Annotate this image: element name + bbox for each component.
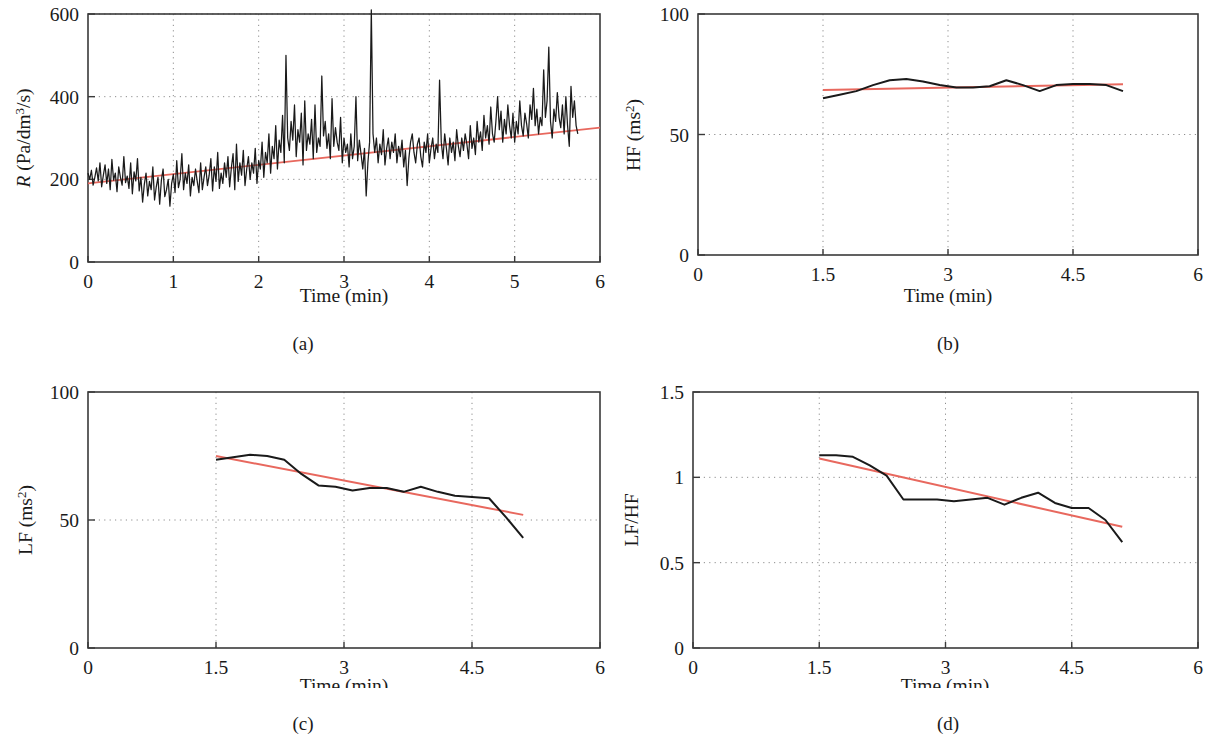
panel-b-xtick-label: 3 bbox=[943, 264, 953, 285]
panel-d-ytick-labels: 00.511.5 bbox=[660, 382, 684, 659]
panel-a-xtick-label: 2 bbox=[254, 271, 264, 292]
panel-d-caption: (d) bbox=[908, 713, 988, 735]
panel-c-plot: 050100 01.534.56 Time (min) LF (ms2) bbox=[0, 378, 610, 688]
panel-b-xtick-label: 6 bbox=[1193, 264, 1203, 285]
panel-a-xtick-label: 4 bbox=[424, 271, 434, 292]
panel-d-yaxis-title: LF/HF bbox=[621, 493, 642, 546]
panel-a-ytick-label: 600 bbox=[50, 4, 79, 25]
panel-b-grid bbox=[698, 14, 1198, 255]
panel-c-xaxis-title: Time (min) bbox=[300, 675, 389, 688]
panel-a-caption: (a) bbox=[263, 333, 343, 355]
panel-c-xtick-label: 0 bbox=[83, 657, 93, 678]
panel-d-ytick-label: 0 bbox=[674, 638, 684, 659]
panel-a-yaxis-unit-tail: /s) bbox=[13, 88, 35, 108]
panel-a-xtick-label: 0 bbox=[83, 271, 93, 292]
panel-a-ytick-label: 200 bbox=[50, 169, 79, 190]
panel-a: 0200400600 0123456 Time (min) R (Pa/dm3/… bbox=[0, 0, 610, 310]
panel-d-trend-line bbox=[819, 459, 1122, 527]
panel-b-xtick-labels: 01.534.56 bbox=[693, 264, 1203, 285]
panel-a-plot: 0200400600 0123456 Time (min) R (Pa/dm3/… bbox=[0, 0, 610, 310]
panel-b-yaxis-label: HF (ms bbox=[623, 112, 645, 171]
panel-b-ticks bbox=[698, 14, 1198, 255]
panel-d-xtick-label: 1.5 bbox=[807, 657, 831, 678]
panel-c-yaxis-label-tail: ) bbox=[15, 485, 37, 492]
panel-a-yaxis-unit: (Pa/dm bbox=[13, 114, 35, 175]
panel-b-plot: 050100 01.534.56 Time (min) HF (ms2) bbox=[610, 0, 1218, 310]
panel-b-caption: (b) bbox=[908, 333, 988, 355]
svg-text:LF (ms2): LF (ms2) bbox=[14, 485, 37, 555]
panel-b-axes bbox=[698, 14, 1198, 255]
panel-a-xaxis-title: Time (min) bbox=[300, 285, 389, 307]
panel-b-ytick-label: 100 bbox=[660, 4, 689, 25]
panel-b: 050100 01.534.56 Time (min) HF (ms2) (b) bbox=[610, 0, 1218, 310]
panel-d-xtick-label: 4.5 bbox=[1060, 657, 1084, 678]
panel-b-xtick-label: 0 bbox=[693, 264, 703, 285]
panel-d-ytick-label: 0.5 bbox=[660, 553, 684, 574]
panel-b-xtick-label: 4.5 bbox=[1061, 264, 1085, 285]
panel-d-grid bbox=[693, 392, 1198, 648]
panel-c-grid bbox=[88, 392, 600, 648]
panel-c-caption: (c) bbox=[263, 713, 343, 735]
panel-c-trend-line bbox=[216, 456, 523, 515]
panel-b-yaxis-label-tail: ) bbox=[623, 99, 645, 106]
panel-d-xtick-label: 0 bbox=[688, 657, 698, 678]
panel-a-yaxis-title: R (Pa/dm3/s) bbox=[12, 88, 35, 188]
panel-b-ytick-label: 50 bbox=[670, 125, 690, 146]
panel-c: 050100 01.534.56 Time (min) LF (ms2) (c) bbox=[0, 378, 610, 688]
panel-c-xtick-label: 6 bbox=[595, 657, 605, 678]
panel-a-xtick-label: 5 bbox=[510, 271, 520, 292]
panel-a-ytick-label: 400 bbox=[50, 87, 79, 108]
panel-d-xaxis-title: Time (min) bbox=[901, 675, 990, 688]
svg-text:R (Pa/dm3/s): R (Pa/dm3/s) bbox=[12, 88, 35, 188]
panel-a-ytick-labels: 0200400600 bbox=[50, 4, 79, 273]
panel-c-ytick-label: 50 bbox=[60, 510, 80, 531]
panel-c-data-line bbox=[216, 455, 523, 538]
figure-container: 0200400600 0123456 Time (min) R (Pa/dm3/… bbox=[0, 0, 1218, 744]
panel-a-xtick-label: 1 bbox=[168, 271, 178, 292]
panel-b-ytick-labels: 050100 bbox=[660, 4, 689, 266]
panel-a-ytick-label: 0 bbox=[69, 252, 79, 273]
panel-b-yaxis-title: HF (ms2) bbox=[622, 99, 645, 171]
panel-c-ytick-label: 100 bbox=[50, 382, 79, 403]
panel-d-xtick-label: 6 bbox=[1193, 657, 1203, 678]
panel-c-ytick-label: 0 bbox=[69, 638, 79, 659]
panel-d-yaxis-label: LF/HF bbox=[621, 493, 642, 546]
panel-d-ytick-label: 1 bbox=[674, 467, 684, 488]
svg-text:HF (ms2): HF (ms2) bbox=[622, 99, 645, 171]
panel-d-ytick-label: 1.5 bbox=[660, 382, 684, 403]
panel-a-data-line bbox=[88, 10, 578, 206]
panel-c-yaxis-label: LF (ms bbox=[15, 498, 37, 555]
panel-b-ytick-label: 0 bbox=[679, 245, 689, 266]
panel-a-xtick-label: 6 bbox=[595, 271, 605, 292]
panel-a-yaxis-symbol: R bbox=[13, 176, 34, 189]
panel-c-yaxis-title: LF (ms2) bbox=[14, 485, 37, 555]
panel-d-plot: 00.511.5 01.534.56 Time (min) LF/HF bbox=[610, 378, 1218, 688]
panel-c-ytick-labels: 050100 bbox=[50, 382, 79, 659]
panel-c-xtick-label: 1.5 bbox=[204, 657, 228, 678]
panel-b-xaxis-title: Time (min) bbox=[904, 285, 993, 307]
panel-d: 00.511.5 01.534.56 Time (min) LF/HF (d) bbox=[610, 378, 1218, 688]
panel-c-xtick-label: 4.5 bbox=[460, 657, 484, 678]
panel-b-xtick-label: 1.5 bbox=[811, 264, 835, 285]
